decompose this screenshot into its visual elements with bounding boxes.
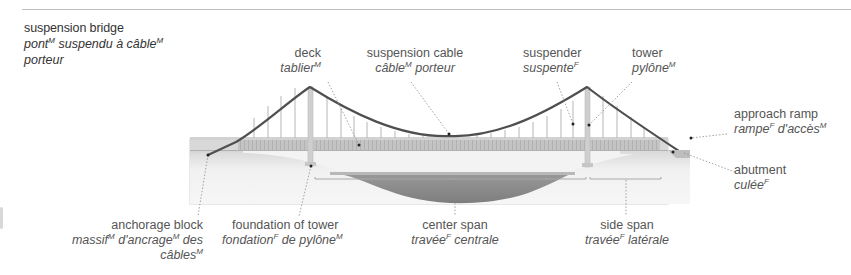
label-tower: tower pylôneM [632,46,676,76]
label-suspension-cable: suspension cable câbleM porteur [355,46,475,76]
label-center-span: center span travéeF centrale [400,218,510,248]
label-approach-ramp: approach ramp rampeF d'accèsM [734,107,826,137]
label-deck: deck tablierM [259,46,321,76]
label-side-span: side span travéeF latérale [572,218,682,248]
label-abutment: abutment culéeF [734,163,786,193]
label-anchorage-block: anchorage block massifM d'ancrageM des c… [60,218,203,263]
label-suspender: suspender suspenteF [523,46,581,76]
label-foundation-of-tower: foundation of tower fondationF de pylône… [222,218,343,248]
water-surface [330,172,575,175]
deck-structure [190,137,668,151]
